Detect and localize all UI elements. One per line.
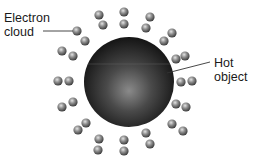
electron xyxy=(94,10,103,19)
electron xyxy=(119,19,128,28)
electron xyxy=(181,102,190,111)
electron xyxy=(80,36,89,45)
electron xyxy=(98,20,107,29)
electron xyxy=(72,26,81,35)
electron xyxy=(53,76,62,85)
hot-object-electron-cloud-diagram: Electron cloud Hot object xyxy=(0,0,254,159)
electron xyxy=(141,23,150,32)
electron xyxy=(93,145,102,154)
electron xyxy=(171,54,180,63)
hot-object-label: Hot object xyxy=(214,56,247,84)
electron xyxy=(141,128,150,137)
electron xyxy=(57,46,66,55)
electron xyxy=(119,146,128,155)
electron-cloud-label-line2: cloud xyxy=(4,25,50,39)
electron-cloud-label-line1: Electron xyxy=(4,11,50,25)
electron xyxy=(81,118,90,127)
electron xyxy=(159,36,168,45)
hot-object-label-line1: Hot xyxy=(214,56,247,70)
hot-object-sphere xyxy=(84,37,174,127)
electron xyxy=(187,76,196,85)
electron xyxy=(119,135,128,144)
electron xyxy=(68,51,77,60)
electron xyxy=(68,97,77,106)
electron xyxy=(57,102,66,111)
electron xyxy=(167,28,176,37)
electron xyxy=(180,51,189,60)
electron xyxy=(73,125,82,134)
electron xyxy=(145,139,154,148)
electron xyxy=(94,134,103,143)
electron xyxy=(119,7,128,16)
electron xyxy=(64,76,73,85)
hot-object-leader-line xyxy=(167,62,210,73)
hot-object-label-line2: object xyxy=(214,70,247,84)
electron xyxy=(145,12,154,21)
electron xyxy=(176,77,185,86)
electron xyxy=(178,126,187,135)
electron xyxy=(171,99,180,108)
electron xyxy=(167,119,176,128)
electron-cloud-label: Electron cloud xyxy=(4,11,50,39)
